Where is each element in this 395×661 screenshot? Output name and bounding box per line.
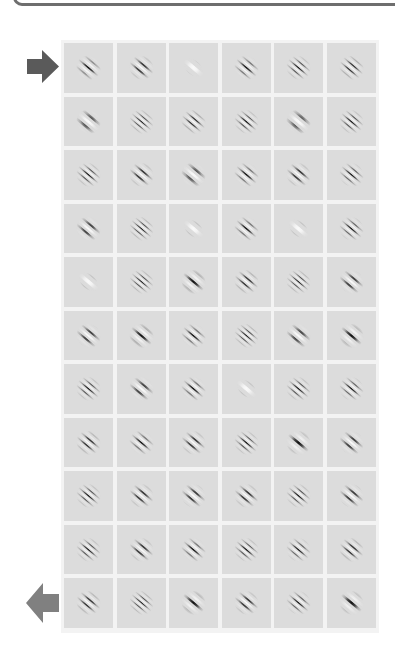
filter-patch — [169, 204, 218, 254]
filter-patch — [222, 311, 271, 361]
filter-patch — [169, 257, 218, 307]
filter-patch — [117, 525, 166, 575]
filter-patch — [327, 364, 376, 414]
filter-patch — [117, 257, 166, 307]
filter-patch — [327, 43, 376, 93]
filter-patch — [117, 311, 166, 361]
filter-patch — [222, 257, 271, 307]
filter-patch — [117, 43, 166, 93]
filter-patch — [117, 97, 166, 147]
filter-patch — [327, 204, 376, 254]
filter-patch — [327, 257, 376, 307]
filter-patch — [222, 43, 271, 93]
filter-patch — [64, 43, 113, 93]
filter-patch — [169, 311, 218, 361]
filter-patch — [169, 525, 218, 575]
filter-patch — [64, 150, 113, 200]
arrow-left-shape — [26, 583, 59, 623]
filter-patch — [169, 418, 218, 468]
filter-patch — [327, 525, 376, 575]
top-panel-border — [13, 0, 395, 6]
filter-patch — [274, 578, 323, 628]
filter-patch — [327, 418, 376, 468]
filter-patch — [327, 578, 376, 628]
filter-patch — [274, 43, 323, 93]
filter-patch — [117, 578, 166, 628]
filter-patch — [222, 204, 271, 254]
filter-patch — [117, 364, 166, 414]
filter-patch — [274, 150, 323, 200]
filter-patch — [222, 150, 271, 200]
filter-patch — [327, 97, 376, 147]
filter-patch — [169, 97, 218, 147]
filter-patch — [274, 311, 323, 361]
filter-patch — [274, 257, 323, 307]
filter-patch — [222, 471, 271, 521]
filter-patch — [169, 364, 218, 414]
filter-patch — [274, 204, 323, 254]
filter-patch — [117, 418, 166, 468]
filter-patch — [327, 471, 376, 521]
filter-patch — [222, 418, 271, 468]
filter-patch — [169, 150, 218, 200]
filter-patch — [64, 204, 113, 254]
filter-patch — [64, 525, 113, 575]
filter-patch — [274, 364, 323, 414]
filter-patch — [327, 311, 376, 361]
filter-patch — [64, 311, 113, 361]
filter-patch — [64, 578, 113, 628]
filter-patch — [117, 204, 166, 254]
filter-patch — [222, 97, 271, 147]
arrow-left-icon — [26, 583, 59, 623]
filter-patch — [274, 97, 323, 147]
filter-patch — [169, 471, 218, 521]
filter-patch — [64, 418, 113, 468]
filter-patch — [117, 150, 166, 200]
arrow-right-icon — [27, 50, 60, 83]
filter-patch — [222, 578, 271, 628]
filter-patch — [64, 97, 113, 147]
filter-patch — [117, 471, 166, 521]
filter-patch — [169, 43, 218, 93]
filter-patch — [64, 257, 113, 307]
filter-patch — [274, 418, 323, 468]
filter-patch — [64, 471, 113, 521]
arrow-right-shape — [27, 50, 59, 83]
filter-patch — [327, 150, 376, 200]
filter-patch — [274, 525, 323, 575]
filter-patch — [64, 364, 113, 414]
filter-patch — [222, 525, 271, 575]
filter-patch — [169, 578, 218, 628]
filter-grid — [64, 43, 376, 628]
filter-patch — [274, 471, 323, 521]
filter-patch — [222, 364, 271, 414]
